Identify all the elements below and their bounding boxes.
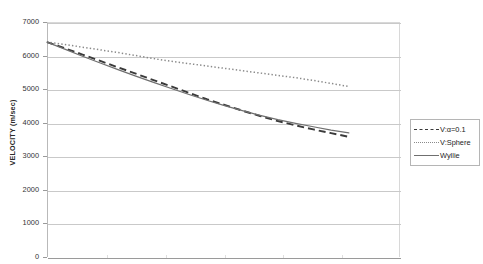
x-axis-tick-mark (166, 255, 167, 258)
plot-area (47, 22, 400, 257)
y-axis-tick-label: 0 (5, 253, 39, 261)
legend-item[interactable]: Wyllie (413, 149, 477, 162)
gridline (48, 258, 401, 259)
gridline (48, 191, 401, 192)
legend-item-label: V:Sphere (440, 138, 471, 147)
y-axis-title: VELOCITY (m/sec) (8, 83, 17, 183)
y-axis-tick-label: 6000 (5, 52, 39, 60)
gridline (48, 90, 401, 91)
gridline (48, 57, 401, 58)
y-axis-tick-label: 2000 (5, 186, 39, 194)
chart-legend: V:α=0.1 V:Sphere Wyllie (410, 119, 480, 166)
y-axis-tick-label: 1000 (5, 219, 39, 227)
legend-swatch-dashed-line-icon (413, 125, 440, 135)
gridline (48, 124, 401, 125)
gridline (48, 157, 401, 158)
legend-swatch-dotted-line-icon (413, 138, 440, 148)
legend-swatch-solid-line-icon (413, 151, 440, 161)
page-title: RELATIONSHIPS OF THE FORMS (0, 0, 400, 2)
gridline (48, 224, 401, 225)
legend-item-label: V:α=0.1 (440, 125, 466, 134)
y-axis-tick-label: 4000 (5, 119, 39, 127)
y-axis-tick-label: 7000 (5, 18, 39, 26)
legend-item[interactable]: V:α=0.1 (413, 123, 477, 136)
x-axis-tick-mark (225, 255, 226, 258)
legend-item[interactable]: V:Sphere (413, 136, 477, 149)
y-axis-tick-label: 3000 (5, 152, 39, 160)
x-axis-tick-mark (283, 255, 284, 258)
gridline (48, 23, 401, 24)
y-axis-tick-mark (43, 257, 47, 258)
y-axis-tick-label: 5000 (5, 85, 39, 93)
x-axis-tick-mark (107, 255, 108, 258)
x-axis-tick-mark (342, 255, 343, 258)
legend-item-label: Wyllie (440, 151, 460, 160)
